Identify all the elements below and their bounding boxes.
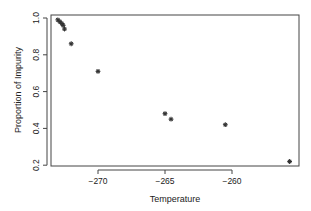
x-tick-label: −265 (155, 176, 174, 186)
y-tick-label: 0.8 (31, 49, 41, 61)
scatter-chart: −270−265−260 0.20.40.60.81.0 Temperature… (0, 0, 311, 211)
y-axis: 0.20.40.60.81.0 (31, 12, 47, 171)
y-axis-label: Proportion of Impurity (13, 46, 23, 133)
data-point-asterisk-icon (169, 117, 174, 122)
x-axis: −270−265−260 (88, 170, 241, 186)
y-tick-label: 1.0 (31, 12, 41, 24)
data-point-asterisk-icon (163, 111, 168, 116)
data-point-asterisk-icon (96, 69, 101, 74)
y-tick-label: 0.4 (31, 122, 41, 134)
data-point-asterisk-icon (223, 122, 228, 127)
data-point-asterisk-icon (287, 159, 292, 164)
data-point-asterisk-icon (69, 41, 74, 46)
x-tick-label: −260 (222, 176, 241, 186)
data-points (55, 17, 292, 163)
plot-frame (51, 15, 299, 166)
y-tick-label: 0.2 (31, 159, 41, 171)
x-axis-label: Temperature (150, 194, 201, 204)
y-tick-label: 0.6 (31, 85, 41, 97)
x-tick-label: −270 (88, 176, 107, 186)
